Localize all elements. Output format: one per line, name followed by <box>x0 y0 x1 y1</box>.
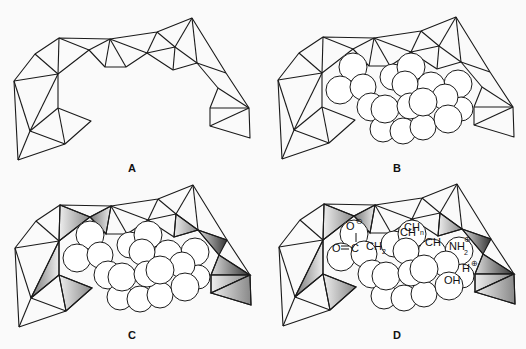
panel-label-b: B <box>393 162 401 174</box>
svg-text:CH: CH <box>404 221 420 233</box>
svg-text:C: C <box>351 242 359 254</box>
figure-canvas: O ⊖ O C CH 2 CH CH n CH NH 2 ⊕ OH H ⊕ <box>0 0 526 349</box>
svg-text:H: H <box>462 262 470 274</box>
svg-text:OH: OH <box>444 274 461 286</box>
svg-text:⊕: ⊕ <box>471 259 478 268</box>
panel-label-d: D <box>393 329 401 341</box>
svg-text:O: O <box>332 242 341 254</box>
svg-text:⊖: ⊖ <box>356 217 363 226</box>
svg-text:NH: NH <box>449 240 465 252</box>
svg-text:O: O <box>346 220 355 232</box>
panel-c-framework <box>15 185 251 327</box>
svg-text:2: 2 <box>382 248 386 255</box>
svg-text:2: 2 <box>464 249 468 256</box>
panel-a-framework <box>14 18 250 160</box>
svg-text:⊕: ⊕ <box>464 235 471 244</box>
svg-text:CH: CH <box>425 236 441 248</box>
svg-text:n: n <box>420 229 424 236</box>
panel-b-framework <box>278 17 514 159</box>
svg-text:CH: CH <box>366 240 382 252</box>
panel-label-c: C <box>128 329 136 341</box>
panel-label-a: A <box>128 162 136 174</box>
panel-d-framework: O ⊖ O C CH 2 CH CH n CH NH 2 ⊕ OH H ⊕ <box>279 184 515 326</box>
